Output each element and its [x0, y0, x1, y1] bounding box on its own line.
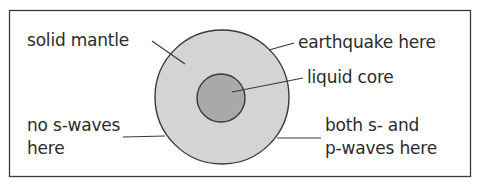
label-liquid-core: liquid core [307, 67, 394, 87]
core-circle [197, 74, 245, 122]
label-no-s-waves-line2: here [27, 138, 65, 158]
diagram-graphic [0, 0, 485, 188]
label-both-waves-line2: p-waves here [325, 138, 437, 158]
label-solid-mantle: solid mantle [27, 30, 129, 50]
label-both-waves-line1: both s- and [325, 115, 419, 135]
label-no-s-waves-line1: no s-waves [27, 115, 120, 135]
earth-seismic-diagram: solid mantle earthquake here liquid core… [0, 0, 485, 188]
label-earthquake: earthquake here [298, 32, 436, 52]
